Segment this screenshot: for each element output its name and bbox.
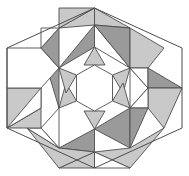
tessellation-canvas xyxy=(0,0,189,176)
tessellation-figure xyxy=(0,0,189,176)
star-core-hexagon xyxy=(77,65,113,111)
